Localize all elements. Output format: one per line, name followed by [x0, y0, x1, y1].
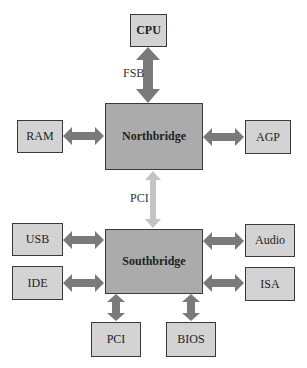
audio-box: Audio	[245, 224, 295, 257]
usb-box: USB	[12, 223, 63, 256]
southbridge-box: Southbridge	[105, 229, 203, 294]
agp-box: AGP	[245, 120, 291, 154]
isa-label: ISA	[260, 277, 279, 292]
pci-device-label: PCI	[107, 332, 126, 347]
isa-arrow	[203, 274, 244, 292]
ram-box: RAM	[17, 120, 63, 153]
audio-label: Audio	[255, 233, 285, 248]
pci-box: PCI	[91, 322, 141, 357]
northbridge-label: Northbridge	[122, 129, 186, 144]
southbridge-label: Southbridge	[122, 254, 185, 269]
cpu-label: CPU	[136, 23, 161, 38]
bios-arrow	[182, 294, 200, 321]
pci-bus-label: PCI	[130, 191, 149, 206]
agp-label: AGP	[256, 130, 280, 145]
fsb-label: FSB	[123, 66, 144, 81]
bios-label: BIOS	[177, 332, 204, 347]
northbridge-box: Northbridge	[105, 103, 203, 170]
ide-label: IDE	[28, 276, 48, 291]
ide-box: IDE	[12, 266, 63, 300]
ram-arrow	[63, 127, 104, 145]
bios-box: BIOS	[166, 322, 216, 357]
audio-arrow	[203, 232, 244, 250]
cpu-box: CPU	[130, 14, 167, 47]
ide-arrow	[63, 274, 104, 292]
usb-arrow	[63, 231, 104, 249]
pci-device-arrow	[107, 294, 125, 321]
agp-arrow	[203, 128, 244, 146]
isa-box: ISA	[245, 267, 295, 301]
connection-arrows	[0, 0, 307, 368]
usb-label: USB	[26, 232, 49, 247]
ram-label: RAM	[26, 129, 53, 144]
